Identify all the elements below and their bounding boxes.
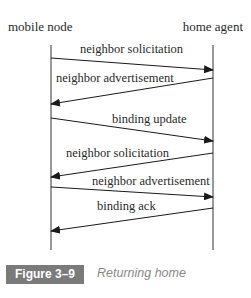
figure-number-badge: Figure 3–9	[6, 265, 84, 284]
arrow-right	[51, 58, 213, 70]
participant-mobile-node: mobile node	[8, 19, 73, 34]
message-label: neighbor solicitation	[80, 42, 184, 56]
message-label: neighbor advertisement	[92, 174, 210, 188]
message-3: binding update	[51, 112, 213, 141]
message-1: neighbor solicitation	[51, 42, 213, 70]
figure-caption: Returning home	[97, 266, 186, 280]
sequence-diagram: mobile node home agent neighbor solicita…	[0, 0, 251, 298]
participant-home-agent: home agent	[183, 19, 244, 34]
arrow-right	[51, 187, 213, 197]
figure-number: Figure 3–9	[6, 267, 84, 281]
message-6: binding ack	[51, 199, 213, 231]
message-5: neighbor advertisement	[51, 174, 213, 197]
message-label: binding update	[112, 112, 187, 126]
message-4: neighbor solicitation	[51, 146, 213, 177]
message-label: neighbor solicitation	[66, 146, 170, 160]
message-label: neighbor advertisement	[56, 71, 174, 85]
message-2: neighbor advertisement	[51, 71, 213, 104]
message-label: binding ack	[97, 199, 156, 213]
